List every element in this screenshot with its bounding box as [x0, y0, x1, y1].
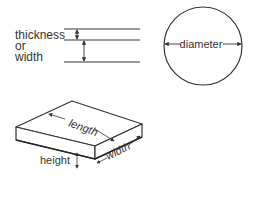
width-arrow-bottom-icon — [97, 158, 107, 163]
circle-panel: diameter — [164, 7, 242, 85]
thickness-panel: thickness or width — [14, 28, 140, 64]
thickness-label: thickness or width — [14, 28, 68, 64]
box-panel: length width height — [16, 101, 142, 168]
diameter-label: diameter — [180, 38, 223, 50]
height-label: height — [40, 154, 70, 166]
measurement-diagram: thickness or width diameter length width… — [0, 0, 256, 197]
